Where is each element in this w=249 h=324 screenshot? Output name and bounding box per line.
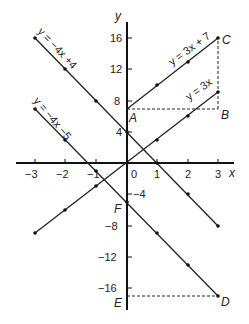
point-label-E: E (114, 296, 123, 310)
x-tick-labels: −3 −2 −1 0 1 2 3 (25, 168, 221, 180)
y-tick-label: 8 (114, 95, 120, 107)
x-tick-label: −3 (25, 168, 38, 180)
x-tick-label: 1 (154, 168, 160, 180)
equation-label-neg4x-minus-5: y = −4x −5 (31, 95, 73, 142)
point-label-F: F (114, 202, 122, 216)
x-tick-label: −2 (56, 168, 69, 180)
y-tick-label: −8 (105, 220, 118, 232)
point-label-C: C (222, 33, 231, 47)
line-y-3x-plus-7 (127, 38, 218, 109)
y-tick-label: −16 (98, 282, 117, 294)
x-tick-label: 3 (215, 168, 221, 180)
x-tick-label: 2 (185, 168, 191, 180)
axes (16, 22, 234, 310)
coordinate-graph: x y −3 −2 −1 0 1 2 3 16 12 8 4 −4 −8 −12… (0, 0, 249, 324)
y-axis-label: y (114, 9, 122, 23)
x-tick-label: 0 (131, 168, 137, 180)
y-tick-label: 12 (110, 63, 122, 75)
equation-label-neg4x-plus-4: y = −4x +4 (36, 25, 80, 71)
x-axis-label: x (228, 166, 236, 180)
point-label-B: B (221, 108, 229, 122)
y-tick-label: 4 (116, 126, 122, 138)
point-label-D: D (221, 295, 230, 309)
x-tick-label: −1 (87, 168, 100, 180)
y-tick-label: −12 (98, 251, 117, 263)
y-tick-label: −4 (133, 188, 146, 200)
point-label-A: A (128, 111, 137, 125)
y-tick-label: 16 (110, 32, 122, 44)
